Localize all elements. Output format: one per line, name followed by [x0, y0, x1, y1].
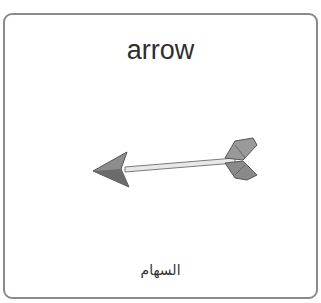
flashcard[interactable]: arrow السهام — [3, 13, 318, 299]
arrow-icon — [85, 125, 260, 190]
card-title: arrow — [5, 35, 316, 65]
card-subtitle-arabic: السهام — [5, 262, 316, 278]
